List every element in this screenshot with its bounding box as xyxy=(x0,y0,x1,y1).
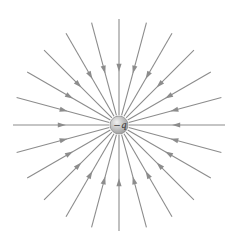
arrowhead-icon xyxy=(132,176,137,184)
arrowhead-icon xyxy=(116,178,121,186)
arrowhead-icon xyxy=(86,171,92,179)
arrowhead-icon xyxy=(58,122,66,127)
arrowhead-icon xyxy=(172,122,180,127)
arrowhead-icon xyxy=(165,152,173,158)
arrowhead-icon xyxy=(170,107,178,112)
arrowhead-icon xyxy=(146,71,152,79)
arrowhead-icon xyxy=(59,107,67,112)
arrowhead-icon xyxy=(165,92,173,98)
arrowhead-icon xyxy=(101,176,106,184)
arrowhead-icon xyxy=(132,65,137,73)
arrowhead-icon xyxy=(65,152,73,158)
arrowhead-icon xyxy=(101,65,106,73)
negative-charge: −q xyxy=(110,116,128,134)
arrowhead-icon xyxy=(116,64,121,72)
arrowhead-icon xyxy=(170,138,178,143)
arrowhead-icon xyxy=(65,92,73,98)
arrowhead-icon xyxy=(59,138,67,143)
field-diagram: −q xyxy=(0,0,238,238)
arrowhead-icon xyxy=(146,171,152,179)
charge-label: −q xyxy=(113,120,127,130)
arrowhead-icon xyxy=(86,71,92,79)
